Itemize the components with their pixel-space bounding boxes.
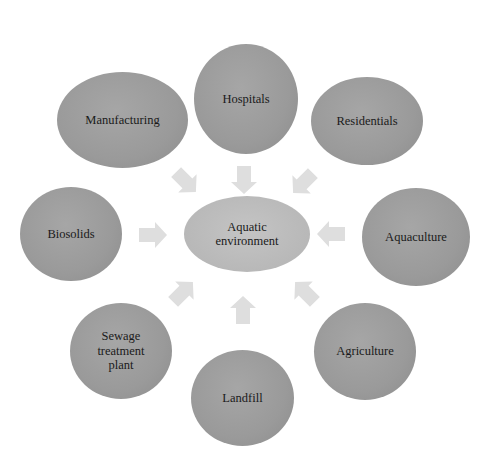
arrow-residentials <box>284 164 322 202</box>
manufacturing-label: Manufacturing <box>85 113 159 127</box>
center-label-line2: environment <box>215 234 278 248</box>
node-residentials: Residentials <box>311 77 423 165</box>
aquaculture-label: Aquaculture <box>385 230 447 244</box>
arrow-manufacturing <box>167 163 205 201</box>
arrow-sewage <box>164 273 202 311</box>
arrow-agriculture <box>286 273 324 311</box>
biosolids-label: Biosolids <box>47 227 94 241</box>
sewage-label-line1: Sewage <box>97 329 144 343</box>
landfill-label: Landfill <box>222 391 262 405</box>
arrow-biosolids <box>139 222 167 248</box>
arrow-aquaculture <box>317 221 345 247</box>
node-sewage-treatment-plant: Sewage treatment plant <box>70 303 172 399</box>
arrow-hospitals <box>231 166 257 194</box>
agriculture-label: Agriculture <box>336 344 394 358</box>
node-hospitals: Hospitals <box>194 44 298 154</box>
node-aquatic-environment: Aquatic environment <box>184 196 310 272</box>
residentials-label: Residentials <box>336 114 397 128</box>
node-biosolids: Biosolids <box>20 187 122 281</box>
center-label-line1: Aquatic <box>215 220 278 234</box>
node-landfill: Landfill <box>191 350 294 446</box>
arrow-landfill <box>230 296 256 324</box>
node-aquaculture: Aquaculture <box>362 188 470 286</box>
sewage-label-line3: plant <box>97 358 144 372</box>
hospitals-label: Hospitals <box>222 92 269 106</box>
node-manufacturing: Manufacturing <box>57 72 188 168</box>
sewage-label-line2: treatment <box>97 344 144 358</box>
node-agriculture: Agriculture <box>314 303 416 400</box>
